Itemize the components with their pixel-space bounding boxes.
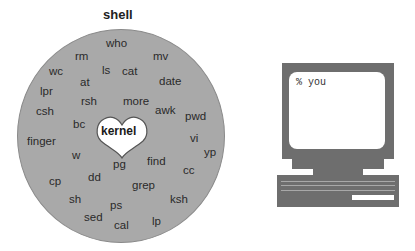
computer-base xyxy=(277,175,399,207)
command-find: find xyxy=(147,155,166,167)
command-cal: cal xyxy=(114,219,129,231)
kernel-label: kernel xyxy=(101,124,136,138)
command-csh: csh xyxy=(36,105,54,117)
command-rsh: rsh xyxy=(81,95,97,107)
command-yp: yp xyxy=(204,146,216,158)
command-lp: lp xyxy=(152,215,161,227)
command-bc: bc xyxy=(73,118,85,130)
command-ls: ls xyxy=(102,64,110,76)
command-awk: awk xyxy=(155,104,175,116)
command-mv: mv xyxy=(153,50,168,62)
command-grep: grep xyxy=(132,179,155,191)
command-ksh: ksh xyxy=(170,193,188,205)
command-cc: cc xyxy=(183,164,195,176)
command-pwd: pwd xyxy=(185,110,206,122)
shell-title: shell xyxy=(103,7,133,22)
command-w: w xyxy=(72,149,80,161)
command-finger: finger xyxy=(27,135,56,147)
command-sh: sh xyxy=(69,193,81,205)
command-who: who xyxy=(106,37,127,49)
command-wc: wc xyxy=(49,65,63,77)
command-ps: ps xyxy=(110,199,122,211)
command-at: at xyxy=(80,76,90,88)
command-dd: dd xyxy=(88,171,101,183)
base-line xyxy=(281,185,395,186)
terminal-prompt: % you xyxy=(296,77,326,88)
command-more: more xyxy=(123,95,149,107)
command-cat: cat xyxy=(122,65,137,77)
command-lpr: lpr xyxy=(40,85,53,97)
command-rm: rm xyxy=(75,50,88,62)
disk-slot xyxy=(352,195,394,200)
command-vi: vi xyxy=(190,132,198,144)
base-line xyxy=(281,181,395,182)
command-date: date xyxy=(159,75,181,87)
command-cp: cp xyxy=(49,175,61,187)
base-line xyxy=(281,190,395,191)
command-sed: sed xyxy=(84,211,103,223)
